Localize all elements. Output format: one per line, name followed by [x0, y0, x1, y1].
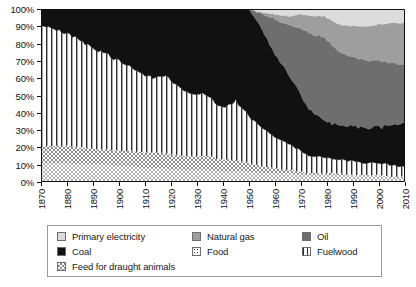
stacked-area-plot	[41, 9, 405, 182]
y-axis: 0%10%20%30%40%50%60%70%80%90%100%	[0, 0, 41, 191]
legend-swatch-feed_draught_animals	[57, 262, 66, 271]
x-tick-mark	[145, 182, 146, 186]
x-tick-mark	[379, 182, 380, 186]
x-tick-mark	[119, 182, 120, 186]
plot-area	[41, 9, 405, 182]
y-tick-label: 20%	[16, 143, 34, 152]
x-tick-label: 1990	[348, 189, 359, 209]
legend-label-food: Food	[207, 246, 228, 257]
x-tick-mark	[67, 182, 68, 186]
legend-swatch-food	[192, 247, 201, 256]
y-tick-label: 60%	[16, 74, 34, 83]
legend-label-natural_gas: Natural gas	[207, 231, 254, 242]
legend-row: Primary electricityNatural gasOil	[57, 231, 381, 246]
chart-figure: 0%10%20%30%40%50%60%70%80%90%100%	[0, 0, 416, 287]
legend-label-oil: Oil	[317, 231, 328, 242]
legend-swatch-primary_electricity	[57, 232, 66, 241]
x-tick-label: 1880	[62, 189, 73, 209]
x-tick-label: 1980	[322, 189, 333, 209]
legend-label-feed_draught_animals: Feed for draught animals	[72, 261, 175, 272]
y-tick-label: 80%	[16, 39, 34, 48]
legend-swatch-natural_gas	[192, 232, 201, 241]
x-tick-label: 2010	[400, 189, 411, 209]
x-tick-mark	[197, 182, 198, 186]
x-tick-label: 1950	[244, 189, 255, 209]
x-tick-label: 1940	[218, 189, 229, 209]
legend-item-coal[interactable]: Coal	[57, 246, 192, 257]
y-tick-label: 10%	[16, 160, 34, 169]
x-tick-label: 1910	[140, 189, 151, 209]
x-tick-mark	[249, 182, 250, 186]
legend-swatch-oil	[302, 232, 311, 241]
x-tick-mark	[353, 182, 354, 186]
x-tick-label: 1930	[192, 189, 203, 209]
y-tick-label: 50%	[16, 91, 34, 100]
x-tick-label: 1970	[296, 189, 307, 209]
legend-item-primary_electricity[interactable]: Primary electricity	[57, 231, 192, 242]
x-tick-mark	[171, 182, 172, 186]
legend-label-coal: Coal	[72, 246, 91, 257]
y-tick-label: 100%	[11, 5, 35, 14]
legend-item-natural_gas[interactable]: Natural gas	[192, 231, 302, 242]
y-tick-label: 90%	[16, 22, 34, 31]
x-tick-label: 1900	[114, 189, 125, 209]
y-tick-label: 70%	[16, 56, 34, 65]
y-tick-label: 0%	[21, 178, 34, 187]
x-tick-label: 1920	[166, 189, 177, 209]
legend-swatch-fuelwood	[302, 247, 311, 256]
legend-item-fuelwood[interactable]: Fuelwood	[302, 246, 357, 257]
x-tick-label: 1870	[36, 189, 47, 209]
x-tick-mark	[405, 182, 406, 186]
x-tick-mark	[223, 182, 224, 186]
legend-label-primary_electricity: Primary electricity	[72, 231, 145, 242]
legend-item-oil[interactable]: Oil	[302, 231, 328, 242]
x-tick-mark	[93, 182, 94, 186]
x-tick-label: 2000	[374, 189, 385, 209]
x-tick-mark	[301, 182, 302, 186]
legend-item-feed_draught_animals[interactable]: Feed for draught animals	[57, 261, 192, 272]
x-tick-label: 1890	[88, 189, 99, 209]
x-tick-mark	[327, 182, 328, 186]
x-tick-mark	[41, 182, 42, 186]
legend-item-food[interactable]: Food	[192, 246, 302, 257]
chart-legend: Primary electricityNatural gasOilCoalFoo…	[47, 225, 382, 277]
legend-swatch-coal	[57, 247, 66, 256]
x-tick-label: 1960	[270, 189, 281, 209]
y-tick-label: 30%	[16, 126, 34, 135]
legend-row: CoalFoodFuelwood	[57, 246, 381, 261]
y-tick-label: 40%	[16, 108, 34, 117]
legend-label-fuelwood: Fuelwood	[317, 246, 357, 257]
x-tick-mark	[275, 182, 276, 186]
legend-row: Feed for draught animals	[57, 261, 381, 276]
x-axis: 1870188018901900191019201930194019501960…	[41, 182, 405, 228]
